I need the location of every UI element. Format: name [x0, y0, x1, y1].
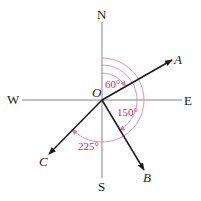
- compass-diagram: N S W E O A B C 60° 150° 225°: [0, 0, 201, 201]
- angle-225-label: 225°: [78, 140, 99, 152]
- angle-60-label: 60°: [105, 78, 120, 90]
- south-label: S: [98, 179, 105, 194]
- west-label: W: [7, 92, 20, 107]
- angle-150-label: 150°: [117, 106, 138, 118]
- vector-c-label: C: [39, 154, 48, 169]
- north-label: N: [97, 7, 107, 22]
- origin-label: O: [92, 85, 102, 100]
- east-label: E: [184, 93, 192, 108]
- vector-b-label: B: [143, 170, 151, 185]
- vector-a-label: A: [173, 52, 182, 67]
